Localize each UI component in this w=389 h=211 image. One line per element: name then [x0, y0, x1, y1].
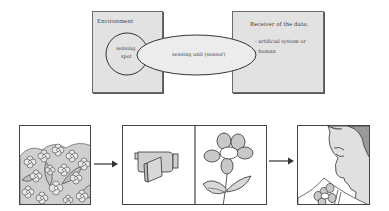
panel-human-smelling-flower	[297, 125, 370, 205]
flower-field-illustration	[20, 126, 91, 205]
receiver-box: Receiver of the data: - artificial syste…	[232, 11, 324, 93]
camera-flower-illustration	[123, 126, 267, 205]
human-smelling-illustration	[298, 126, 370, 205]
panel-camera-and-flower	[122, 125, 267, 205]
environment-label: Environment	[97, 18, 133, 24]
environment-box: Environment	[92, 11, 163, 93]
sensing-unit-label: sensing unit (sensor)	[172, 51, 225, 57]
flower-icon	[203, 133, 253, 205]
receiver-item-human: - human	[255, 48, 276, 54]
sensing-spot-label-line1: sensing	[116, 45, 135, 51]
receiver-label: Receiver of the data:	[250, 21, 308, 27]
receiver-item-artificial: - artificial system or	[255, 38, 306, 44]
video-camera-icon	[135, 152, 178, 182]
panel-flower-field	[19, 125, 91, 205]
sensing-spot-label-line2: spot	[121, 53, 132, 59]
